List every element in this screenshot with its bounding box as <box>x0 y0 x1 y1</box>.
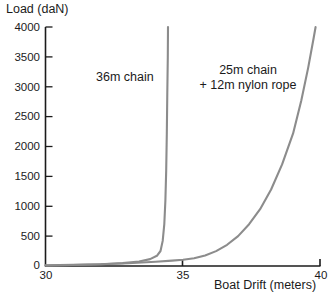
y-tick-label-3000: 3000 <box>0 81 40 93</box>
x-tick-label-35: 35 <box>172 269 194 281</box>
y-axis-ticks <box>46 27 53 236</box>
x-axis-ticks <box>183 259 321 266</box>
y-tick-label-2000: 2000 <box>0 140 40 152</box>
series-annotation-25m-chain-nylon: 25m chain + 12m nylon rope <box>188 63 308 93</box>
annotation-line-1: 25m chain <box>188 63 308 78</box>
x-axis-title: Boat Drift (meters) <box>214 278 316 292</box>
y-tick-label-0: 0 <box>0 259 40 271</box>
y-tick-label-4000: 4000 <box>0 21 40 33</box>
plot-area <box>0 0 336 301</box>
series-annotation-36m-chain: 36m chain <box>96 70 154 85</box>
y-tick-label-3500: 3500 <box>0 51 40 63</box>
y-tick-label-1500: 1500 <box>0 170 40 182</box>
series-line-36m-chain <box>46 27 168 265</box>
x-tick-label-30: 30 <box>35 269 57 281</box>
chart-container: Load (daN) 4000 3500 3000 2500 2000 15 <box>0 0 336 301</box>
y-tick-label-1000: 1000 <box>0 200 40 212</box>
y-tick-label-500: 500 <box>0 230 40 242</box>
y-tick-label-2500: 2500 <box>0 110 40 122</box>
annotation-line-2: + 12m nylon rope <box>188 78 308 93</box>
